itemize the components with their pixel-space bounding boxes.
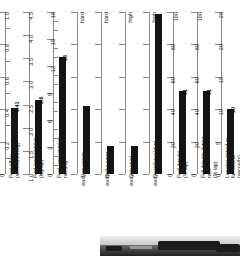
axis-tick-grip-level-3 (119, 77, 125, 78)
axis-tick-full-throttle-during-race-5 (191, 12, 197, 13)
bar-value-label-fuel-throttle: 51 (182, 89, 188, 95)
axis-minor-tick-fuel-effect (5, 93, 10, 94)
axis-tick-label-fuel-consumption-5: 3.5 (28, 58, 34, 66)
axis-tick-label-fuel-consumption-3: 2.5 (28, 105, 34, 113)
category-label-text-longest-period-at-full-throttle: Longest period at full throttle (seconds… (224, 138, 240, 178)
axis-minor-tick-fuel-effect (5, 28, 10, 29)
axis-tick-label-fuel-consumption-ranking-2: 6 (47, 120, 53, 123)
category-label-fuel-throttle: Fuel throttle (% lap) (168, 176, 192, 232)
axis-tick-label-longest-period-at-full-throttle-5: 25 (218, 12, 224, 18)
gauge-fuel-consumption: 1.01.52.02.53.03.54.04.52.6Fuel consumpt… (24, 0, 48, 232)
photo-shape-car (158, 241, 220, 250)
category-label-fuel-effect: Fuel effect (seconds/10kg) (0, 176, 24, 232)
axis-tick-label-fuel-throttle-4: 80 (170, 44, 176, 50)
axis-tick-label-fuel-consumption-ranking-6: 18 (50, 12, 56, 18)
axis-minor-tick-fuel-consumption-ranking (53, 48, 58, 49)
axis-spine-full-throttle-during-race (197, 12, 198, 174)
axis-tick-downforce-level-5 (143, 12, 149, 13)
gauge-fuel-effect: 00.20.40.60.81.00.41Fuel effect (seconds… (0, 0, 24, 232)
axis-minor-tick-fuel-consumption-ranking (53, 57, 58, 58)
axis-tick-grip-level-5 (119, 12, 125, 13)
axis-minor-tick-fuel-effect (5, 125, 10, 126)
axis-tick-label-fuel-effect-4: 0.8 (4, 44, 10, 52)
axis-spine-fuel-throttle (173, 12, 174, 174)
axis-tick-label-tyre-usage-5: hard (79, 12, 85, 23)
axis-tick-label-longest-period-at-full-throttle-2: 10 (218, 109, 224, 115)
axis-tick-tyre-usage-5 (71, 12, 77, 13)
axis-tick-downforce-level-2 (143, 109, 149, 110)
axis-tick-label-brake-wear-5: hard (103, 12, 109, 23)
axis-spine-tyre-usage (77, 12, 78, 174)
axis-tick-label-full-throttle-during-race-4: 80 (194, 44, 200, 50)
axis-tick-brake-wear-0 (95, 174, 101, 175)
axis-tick-fuel-throttle-5 (167, 12, 173, 13)
axis-tick-downforce-level-3 (143, 77, 149, 78)
bar-value-label-longest-period-at-full-throttle: 10 (230, 107, 236, 113)
gauge-fuel-consumption-ranking: 036912151813Fuel consumption ranking (48, 0, 72, 232)
category-label-text-downforce-level: Downforce level (152, 141, 158, 178)
gauge-downforce-level: easyhighDownforce level (144, 0, 168, 232)
photo-shape-left (106, 246, 122, 251)
category-label-text-fuel-consumption: Fuel consumption (Kg/lap) (32, 137, 44, 178)
category-label-longest-period-at-full-throttle: Longest period at full throttle (seconds… (216, 176, 240, 232)
axis-minor-tick-fuel-consumption-ranking (53, 111, 58, 112)
axis-minor-tick-fuel-consumption-ranking (53, 102, 58, 103)
category-label-downforce-level: Downforce level (144, 176, 168, 232)
axis-tick-downforce-level-0 (143, 174, 149, 175)
axis-spine-brake-wear (101, 12, 102, 174)
axis-tick-label-full-throttle-during-race-5: 100 (197, 12, 203, 21)
axis-tick-tyre-usage-2 (71, 109, 77, 110)
axis-tick-brake-wear-5 (95, 12, 101, 13)
category-label-text-fuel-throttle: Fuel throttle (% lap) (176, 151, 188, 178)
gauge-tyre-usage: easyhardTyre usage (72, 0, 96, 232)
axis-tick-label-fuel-throttle-3: 60 (170, 77, 176, 83)
axis-tick-brake-wear-3 (95, 77, 101, 78)
gauge-longest-period-at-full-throttle: 051015202510Longest period at full throt… (216, 0, 240, 232)
axis-tick-label-grip-level-5: high (127, 12, 133, 23)
axis-minor-tick-fuel-consumption-ranking (53, 21, 58, 22)
category-label-text-brake-wear: Brake wear (104, 152, 110, 178)
photo-shape-right (216, 244, 240, 252)
axis-tick-tyre-usage-1 (71, 142, 77, 143)
photo-highlight (130, 246, 152, 249)
gauge-full-throttle-during-race: 02040608010051Full throttle during race … (192, 0, 216, 232)
axis-tick-label-full-throttle-during-race-2: 40 (194, 109, 200, 115)
axis-tick-tyre-usage-0 (71, 174, 77, 175)
axis-tick-label-fuel-effect-2: 0.4 (4, 109, 10, 117)
category-label-text-grip-level: Grip level (128, 156, 134, 178)
bar-value-label-fuel-effect: 0.41 (14, 101, 20, 112)
axis-minor-tick-fuel-consumption-ranking (53, 84, 58, 85)
axis-tick-tyre-usage-3 (71, 77, 77, 78)
axis-tick-label-fuel-throttle-2: 40 (170, 109, 176, 115)
axis-tick-label-longest-period-at-full-throttle-3: 15 (218, 77, 224, 83)
axis-tick-label-fuel-consumption-4: 3.0 (28, 81, 34, 89)
axis-tick-label-fuel-consumption-2: 2.0 (28, 128, 34, 136)
axis-tick-tyre-usage-4 (71, 44, 77, 45)
category-label-text-tyre-usage: Tyre usage (80, 152, 86, 178)
axis-tick-grip-level-2 (119, 109, 125, 110)
category-label-grip-level: Grip level (120, 176, 144, 232)
axis-spine-fuel-consumption-ranking (53, 12, 54, 174)
category-label-fuel-consumption: Fuel consumption (Kg/lap) (24, 176, 48, 232)
axis-minor-tick-fuel-consumption-ranking (53, 75, 58, 76)
figure-page: 00.20.40.60.81.00.41Fuel effect (seconds… (0, 0, 240, 256)
axis-tick-grip-level-1 (119, 142, 125, 143)
axis-tick-downforce-level-4 (143, 44, 149, 45)
category-label-brake-wear: Brake wear (96, 176, 120, 232)
category-label-tyre-usage: Tyre usage (72, 176, 96, 232)
axis-tick-label-longest-period-at-full-throttle-1: 5 (215, 142, 221, 145)
axis-tick-grip-level-4 (119, 44, 125, 45)
axis-tick-brake-wear-4 (95, 44, 101, 45)
axis-tick-label-fuel-consumption-ranking-1: 3 (47, 147, 53, 150)
category-label-text-fuel-effect: Fuel effect (seconds/10kg) (8, 143, 20, 178)
plot-area-grip-level: easyhigh (120, 12, 144, 174)
axis-tick-label-longest-period-at-full-throttle-4: 20 (218, 44, 224, 50)
category-label-full-throttle-during-race: Full throttle during race (% lap) (192, 176, 216, 232)
bar-value-label-full-throttle-during-race: 51 (206, 89, 212, 95)
axis-tick-label-fuel-consumption-ranking-5: 15 (50, 39, 56, 45)
plot-area-brake-wear: easyhard (96, 12, 120, 174)
gauge-chart-row: 00.20.40.60.81.00.41Fuel effect (seconds… (0, 0, 240, 232)
gauge-grip-level: easyhighGrip level (120, 0, 144, 232)
gauge-fuel-throttle: 02040608010051Fuel throttle (% lap) (168, 0, 192, 232)
axis-tick-label-fuel-consumption-ranking-4: 12 (50, 66, 56, 72)
